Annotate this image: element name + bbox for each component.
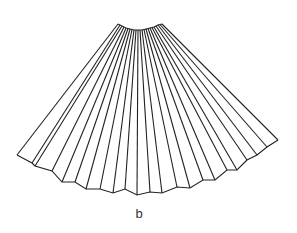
crease-line [17, 24, 118, 155]
fan-creases [17, 24, 278, 195]
crease-line [146, 29, 190, 188]
figure-label: b [132, 206, 146, 221]
crease-line [156, 26, 247, 160]
crease-line [75, 29, 128, 183]
crease-line [32, 25, 120, 163]
pleated-fan-diagram [0, 0, 297, 233]
crease-line [152, 28, 227, 171]
crease-line [158, 25, 257, 155]
crease-line [148, 29, 203, 181]
crease-line [52, 27, 124, 171]
crease-line [162, 24, 278, 140]
crease-line [137, 30, 138, 195]
